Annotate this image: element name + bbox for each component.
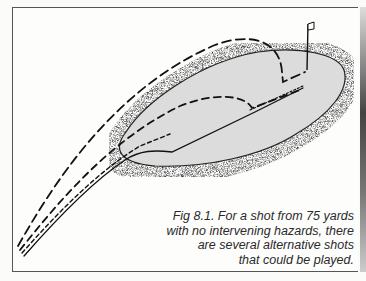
- putting-green: [119, 50, 345, 166]
- caption-line: Fig 8.1. For a shot from 75 yards: [134, 209, 354, 224]
- figure-caption: Fig 8.1. For a shot from 75 yards with n…: [134, 209, 354, 267]
- caption-line: that could be played.: [134, 253, 354, 268]
- caption-line: with no intervening hazards, there: [134, 224, 354, 239]
- caption-line: are several alternative shots: [134, 238, 354, 253]
